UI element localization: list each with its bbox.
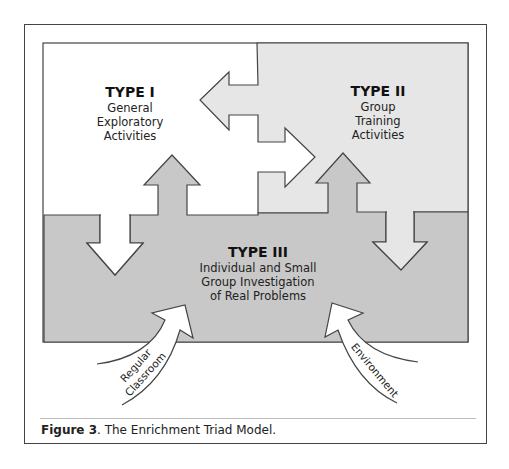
caption-divider [40,418,476,419]
enrichment-triad-diagram: TYPE I General Exploratory Activities TY… [0,0,509,469]
svg-text:Activities: Activities [352,128,404,142]
svg-text:Exploratory: Exploratory [97,115,164,129]
caption-text: . The Enrichment Triad Model. [97,423,276,437]
svg-text:TYPE II: TYPE II [351,83,406,99]
svg-text:Group: Group [360,100,395,114]
svg-text:Training: Training [354,114,400,128]
svg-text:TYPE I: TYPE I [105,84,155,100]
svg-text:General: General [107,101,152,115]
figure-caption: Figure 3. The Enrichment Triad Model. [41,423,276,437]
caption-label: Figure 3 [41,423,97,437]
svg-text:of Real Problems: of Real Problems [210,289,306,303]
svg-text:TYPE III: TYPE III [228,244,288,260]
svg-text:Group Investigation: Group Investigation [201,275,314,289]
svg-text:Individual and Small: Individual and Small [200,261,317,275]
svg-text:Activities: Activities [104,129,156,143]
